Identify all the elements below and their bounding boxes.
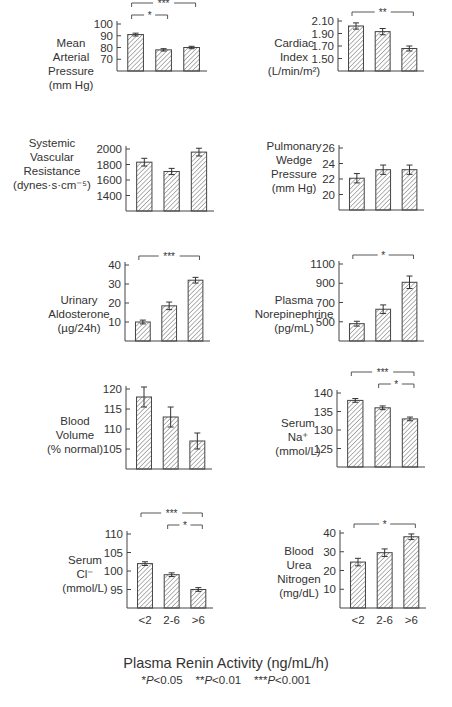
bar bbox=[404, 537, 419, 608]
x-tick-label: >6 bbox=[405, 614, 418, 626]
y-tick-label: 10 bbox=[323, 583, 336, 595]
y-tick-label: 40 bbox=[323, 527, 336, 539]
bar-chart: 10203040<22-6>6* bbox=[0, 0, 452, 707]
x-tick-label: 2-6 bbox=[376, 614, 393, 626]
bar bbox=[351, 562, 366, 608]
x-tick-label: <2 bbox=[351, 614, 364, 626]
significance-label: * bbox=[383, 519, 387, 530]
y-tick-label: 30 bbox=[323, 546, 336, 558]
bar bbox=[377, 553, 392, 608]
y-tick-label: 20 bbox=[323, 565, 336, 577]
